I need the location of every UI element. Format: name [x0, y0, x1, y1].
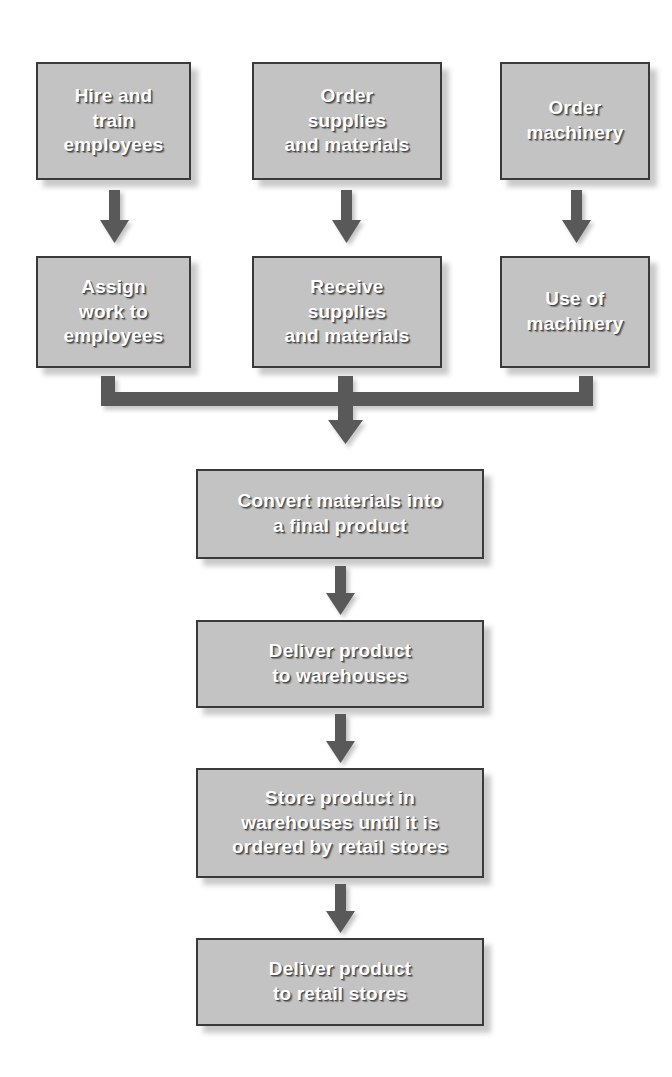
node-deliver-to-warehouses: Deliver product to warehouses: [196, 620, 484, 708]
node-label: Order supplies and materials: [278, 82, 415, 160]
node-order-machinery: Order machinery: [500, 62, 650, 180]
node-store-product: Store product in warehouses until it is …: [196, 768, 484, 878]
node-convert-materials: Convert materials into a final product: [196, 469, 484, 559]
arrow-convert-to-deliver-warehouses-icon: [326, 566, 355, 615]
arrow-store-to-deliver-retail-icon: [326, 884, 355, 933]
merge-bar-to-convert-icon: [101, 376, 593, 444]
node-label: Hire and train employees: [57, 82, 169, 160]
arrow-hire-to-assign-icon: [100, 190, 129, 243]
flowchart-canvas: Hire and train employees Order supplies …: [0, 0, 672, 1077]
node-label: Deliver product to retail stores: [263, 955, 417, 1008]
node-label: Use of machinery: [521, 285, 630, 338]
node-label: Order machinery: [521, 94, 630, 147]
node-label: Store product in warehouses until it is …: [226, 784, 454, 862]
node-hire-and-train-employees: Hire and train employees: [36, 62, 191, 180]
node-order-supplies-and-materials: Order supplies and materials: [252, 62, 442, 180]
arrow-deliver-warehouses-to-store-icon: [326, 714, 355, 763]
node-label: Deliver product to warehouses: [263, 637, 417, 690]
arrow-order-machinery-to-use-icon: [562, 190, 591, 243]
arrow-order-supplies-to-receive-icon: [332, 190, 361, 243]
node-label: Receive supplies and materials: [278, 273, 415, 351]
node-label: Convert materials into a final product: [231, 487, 448, 540]
node-use-of-machinery: Use of machinery: [500, 256, 650, 368]
node-label: Assign work to employees: [57, 273, 169, 351]
node-deliver-to-retail-stores: Deliver product to retail stores: [196, 938, 484, 1026]
node-assign-work-to-employees: Assign work to employees: [36, 256, 191, 368]
node-receive-supplies-and-materials: Receive supplies and materials: [252, 256, 442, 368]
